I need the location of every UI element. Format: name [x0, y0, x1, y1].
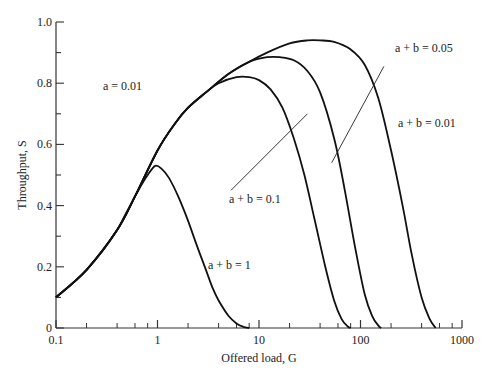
- annotation-ab-0.01: a + b = 0.01: [398, 116, 456, 130]
- y-tick-label: 0.2: [37, 260, 52, 274]
- y-tick-label: 0.4: [37, 199, 52, 213]
- annotation-ab-0.05: a + b = 0.05: [395, 41, 453, 55]
- y-axis-title: Throughput, S: [15, 140, 29, 209]
- x-tick-label: 1: [155, 333, 161, 347]
- y-tick-label: 0.8: [37, 76, 52, 90]
- x-tick-label: 100: [352, 333, 370, 347]
- annotation-ab-0.1: a + b = 0.1: [229, 192, 281, 206]
- y-tick-label: 0.6: [37, 137, 52, 151]
- x-axis-title: Offered load, G: [221, 351, 297, 365]
- throughput-chart: 0.11101001000 00.20.40.60.81.0 Offered l…: [0, 0, 491, 377]
- curve-a+b-0.05: [56, 57, 381, 328]
- annotation-ab-1: a + b = 1: [208, 258, 251, 272]
- x-tick-label: 10: [253, 333, 265, 347]
- axes: [56, 22, 462, 328]
- y-tick-label: 1.0: [37, 15, 52, 29]
- leader-line: [231, 114, 307, 191]
- x-tick-label: 0.1: [49, 333, 64, 347]
- leader-line: [332, 66, 384, 162]
- curve-a+b-1: [56, 166, 249, 328]
- annotation-a: a = 0.01: [103, 79, 142, 93]
- x-ticks: 0.11101001000: [49, 320, 475, 347]
- leader-lines: [231, 66, 384, 190]
- y-ticks: 00.20.40.60.81.0: [37, 15, 64, 335]
- y-tick-label: 0: [46, 321, 52, 335]
- x-tick-label: 1000: [450, 333, 474, 347]
